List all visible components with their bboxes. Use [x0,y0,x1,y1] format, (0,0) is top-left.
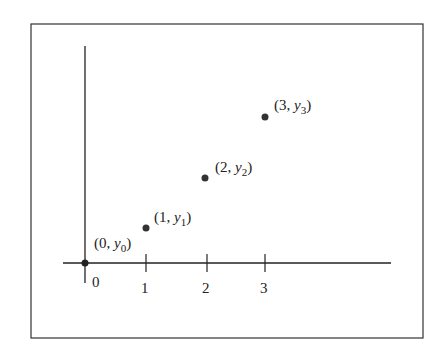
point-label-0: (0, y0) [94,235,131,254]
point-label-1: (1, y1) [154,209,191,228]
diagram-canvas: 0 1 2 3 (0, y0) (1, y1) (2, y2) (3, y3) [0,0,445,351]
x-tick-label-3: 3 [260,280,268,296]
data-point-0 [82,260,89,267]
point-label-2: (2, y2) [215,159,252,178]
data-point-3 [262,114,269,121]
frame-border [31,24,423,338]
x-tick-label-1: 1 [141,280,149,296]
point-label-3: (3, y3) [274,97,311,116]
x-tick-label-2: 2 [202,280,210,296]
data-point-2 [202,175,209,182]
x-tick-label-0: 0 [92,274,100,290]
data-point-1 [143,225,150,232]
